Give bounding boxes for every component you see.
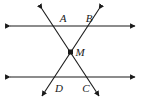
label-c: C [82, 82, 90, 94]
label-d: D [54, 82, 63, 94]
label-b: B [86, 12, 93, 24]
geometry-figure: A B M D C [0, 0, 145, 105]
point-m-square-marker [68, 50, 73, 55]
label-m: M [74, 46, 85, 58]
geometry-canvas: A B M D C [0, 0, 145, 105]
label-a: A [59, 12, 67, 24]
